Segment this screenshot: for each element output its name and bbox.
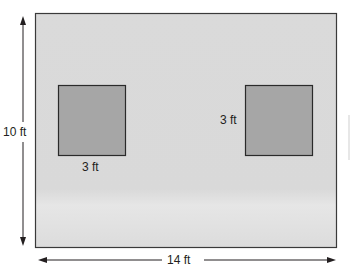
left-square [59,86,126,156]
right-square [246,86,313,156]
right-square-side-label: 3 ft [220,113,237,127]
height-label: 10 ft [3,125,26,139]
floor-plan-diagram [0,0,350,272]
width-label: 14 ft [167,253,190,267]
left-square-side-label: 3 ft [82,160,99,174]
